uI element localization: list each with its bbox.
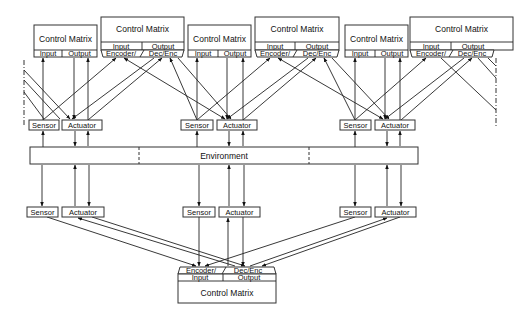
bottom-decoder-to-actuator-link (250, 218, 387, 266)
sensor-to-encoder-link (355, 58, 426, 120)
dec-enc-label: Dec/Enc (149, 49, 178, 58)
actuator-label: Actuator (226, 208, 254, 217)
sensor-label: Sensor (185, 121, 209, 130)
dec-enc-label: Dec/Enc (458, 49, 487, 58)
sensor-to-decoder-link (324, 58, 355, 120)
actuator-label: Actuator (68, 121, 96, 130)
sensor-to-encoder-link (197, 58, 270, 120)
input-port-label: Input (195, 49, 213, 58)
encoder-label: Encoder/ (260, 49, 291, 58)
lower-unit-2: Sensor Actuator (183, 207, 260, 217)
encoder-to-actuator-link (124, 58, 225, 119)
control-matrix-diagram: Control Matrix Input Output Control Matr… (0, 0, 522, 321)
actuator-to-bottom-dec-link (262, 217, 400, 266)
upper-unit-1: Sensor Actuator (29, 120, 102, 130)
top-control-matrix-3: Control Matrix Input Output (345, 25, 408, 58)
sensor-to-decoder-link (170, 58, 197, 120)
matrix-title: Control Matrix (39, 34, 93, 44)
decoder-to-actuator-link (72, 58, 154, 119)
output-port-label: Output (68, 49, 91, 58)
lower-unit-3: Sensor Actuator (340, 207, 416, 217)
output-port-label: Output (381, 49, 404, 58)
bottom-control-matrix: Encoder/ Dec/Enc Input Output Control Ma… (178, 266, 276, 303)
actuator-to-encoder-link (88, 58, 162, 120)
sensor-to-bottom-encoder-link (205, 217, 355, 266)
matrix-title: Control Matrix (116, 24, 170, 34)
top-encoder-control-matrix-3: Control Matrix Input Output Encoder/ Dec… (410, 17, 513, 58)
matrix-title: Control Matrix (435, 24, 489, 34)
bottom-decoder-to-actuator-link (78, 218, 235, 266)
sensor-label: Sensor (187, 208, 211, 217)
sensor-to-encoder-link (43, 58, 116, 120)
environment-label: Environment (200, 151, 248, 161)
offscreen-link (478, 58, 496, 78)
upper-unit-2: Sensor Actuator (181, 120, 257, 130)
decoder-to-actuator-link (332, 58, 389, 119)
offscreen-link (24, 92, 44, 119)
actuator-to-bottom-dec-link (92, 217, 245, 266)
matrix-title: Control Matrix (271, 24, 325, 34)
top-control-matrix-2: Control Matrix Input Output (188, 25, 251, 58)
decoder-to-actuator-link (385, 58, 464, 119)
offscreen-link (441, 58, 496, 110)
offscreen-link (488, 58, 496, 66)
top-encoder-control-matrix-2: Control Matrix Input Output Encoder/ Dec… (255, 17, 339, 58)
lower-unit-1: Sensor Actuator (27, 207, 104, 217)
actuator-label: Actuator (381, 121, 409, 130)
output-port-label: Output (224, 49, 247, 58)
encoder-to-actuator-link (278, 58, 383, 119)
matrix-title: Control Matrix (201, 288, 255, 298)
encoder-label: Encoder/ (106, 49, 137, 58)
sensor-label: Sensor (344, 121, 368, 130)
actuator-label: Actuator (69, 208, 97, 217)
actuator-label: Actuator (382, 208, 410, 217)
top-encoder-control-matrix-1: Control Matrix Input Output Encoder/ Dec… (101, 17, 184, 58)
sensor-label: Sensor (31, 208, 55, 217)
matrix-title: Control Matrix (350, 34, 404, 44)
input-port-label: Input (192, 273, 210, 282)
matrix-title: Control Matrix (193, 34, 247, 44)
upper-unit-3: Sensor Actuator (340, 120, 415, 130)
input-port-label: Input (352, 49, 370, 58)
decoder-to-actuator-link (178, 58, 231, 119)
actuator-label: Actuator (223, 121, 251, 130)
offscreen-link (24, 70, 70, 119)
encoder-label: Encoder/ (416, 49, 447, 58)
sensor-label: Sensor (344, 208, 368, 217)
sensor-to-bottom-encoder-link (47, 217, 196, 266)
dec-enc-label: Dec/Enc (303, 49, 332, 58)
decoder-to-actuator-link (227, 58, 308, 119)
sensor-label: Sensor (32, 121, 56, 130)
actuator-to-encoder-link (243, 58, 316, 120)
top-control-matrix-1: Control Matrix Input Output (34, 25, 97, 58)
output-port-label: Output (238, 273, 261, 282)
actuator-to-encoder-link (401, 58, 472, 120)
input-port-label: Input (40, 49, 58, 58)
environment-bar: Environment (30, 147, 418, 164)
